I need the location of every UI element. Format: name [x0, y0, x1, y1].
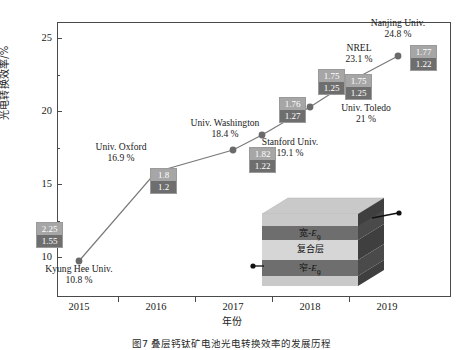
x-tick-mark-4 [349, 297, 350, 302]
bandgap-bottom-value: 1.22 [411, 58, 436, 70]
bandgap-bottom-value: 1.25 [346, 87, 371, 99]
bandgap-bottom-value: 1.27 [280, 110, 305, 122]
y-tick-mark-20 [57, 111, 62, 112]
top-electrode-terminal [396, 210, 401, 215]
annotation-name: Univ. Oxford [95, 142, 146, 153]
inset-label-recombination-layer: 复合层 [260, 242, 360, 255]
bottom-electrode-terminal [250, 263, 255, 268]
y-tick-label-10: 10 [22, 252, 52, 262]
annotation-stanford-univ: Stanford Univ. 19.1 % [262, 137, 318, 158]
x-tick-mark-2 [195, 297, 196, 302]
annotation-name: Univ. Washington [191, 118, 260, 129]
bandgap-bottom-value: 1.25 [319, 82, 344, 94]
stack-layer-light-front [262, 214, 358, 226]
x-tick-label-2017: 2017 [203, 301, 263, 312]
annotation-univ-oxford: Univ. Oxford 16.9 % [95, 142, 146, 163]
x-tick-label-2019: 2019 [357, 301, 417, 312]
y-tick-mark-15 [57, 184, 62, 185]
bandgap-top-value: 1.76 [280, 98, 305, 110]
bandgap-bottom-value: 1.55 [37, 235, 62, 247]
annotation-efficiency: 16.9 % [95, 153, 146, 164]
annotation-name: NREL [345, 43, 372, 54]
annotation-efficiency: 19.1 % [262, 148, 318, 159]
y-tick-mark-25 [57, 38, 62, 39]
subscript-g: g [317, 233, 321, 241]
bandgap-box-nrel: 1.75 1.25 [318, 69, 345, 95]
x-tick-mark-3 [272, 297, 273, 302]
figure-caption: 图7 叠层钙钛矿电池光电转换效率的发展历程 [0, 336, 463, 350]
bandgap-box-univ-oxford: 1.8 1.2 [150, 168, 177, 194]
annotation-nrel: NREL 23.1 % [345, 43, 372, 64]
bandgap-box-nanjing-univ: 1.77 1.22 [410, 45, 437, 71]
y-axis-label: 光电转换效率/% [0, 0, 11, 120]
bandgap-top-value: 2.25 [37, 223, 62, 235]
annotation-kyung-hee: Kyung Hee Univ. 10.8 % [45, 264, 112, 285]
annotation-efficiency: 24.8 % [371, 29, 425, 40]
annotation-name: Stanford Univ. [262, 137, 318, 148]
x-tick-label-2016: 2016 [126, 301, 186, 312]
y-tick-minor-22-5 [57, 75, 60, 76]
annotation-name: Univ. Toledo [341, 103, 391, 114]
x-tick-label-2015: 2015 [49, 301, 109, 312]
inset-label-narrow-bandgap: 窄-Eg [260, 261, 360, 276]
annotation-univ-washington: Univ. Washington 18.4 % [191, 118, 260, 139]
bandgap-top-value: 1.8 [151, 169, 176, 181]
bandgap-box-stanford-univ: 1.76 1.27 [279, 97, 306, 123]
bandgap-top-value: 1.75 [346, 75, 371, 87]
annotation-name: Kyung Hee Univ. [45, 264, 112, 275]
stack-layer-bottom-front [262, 276, 358, 286]
annotation-nanjing-univ: Nanjing Univ. 24.8 % [371, 18, 425, 39]
bandgap-bottom-value: 1.2 [151, 181, 176, 193]
y-tick-label-20: 20 [22, 106, 52, 116]
bandgap-top-value: 1.75 [319, 70, 344, 82]
annotation-efficiency: 10.8 % [45, 275, 112, 286]
y-tick-label-25: 25 [22, 33, 52, 43]
bandgap-box-kyung-hee: 2.25 1.55 [36, 222, 63, 248]
y-tick-mark-10 [57, 257, 62, 258]
x-tick-label-2018: 2018 [280, 301, 340, 312]
annotation-name: Nanjing Univ. [371, 18, 425, 29]
annotation-univ-toledo: Univ. Toledo 21 % [341, 103, 391, 124]
annotation-efficiency: 18.4 % [191, 129, 260, 140]
inset-tandem-cell-diagram: 宽-Eg 复合层 窄-Eg [262, 196, 402, 292]
y-tick-minor-17-5 [57, 148, 60, 149]
inset-label-wide-bandgap: 宽-Eg [260, 226, 360, 241]
bandgap-box-univ-toledo: 1.75 1.25 [345, 74, 372, 100]
subscript-g: g [317, 268, 321, 276]
annotation-efficiency: 23.1 % [345, 54, 372, 65]
bandgap-bottom-value: 1.22 [250, 160, 275, 172]
y-tick-label-15: 15 [22, 179, 52, 189]
annotation-efficiency: 21 % [341, 114, 391, 125]
bandgap-top-value: 1.77 [411, 46, 436, 58]
x-axis-label: 年份 [0, 313, 463, 328]
x-tick-mark-1 [118, 297, 119, 302]
